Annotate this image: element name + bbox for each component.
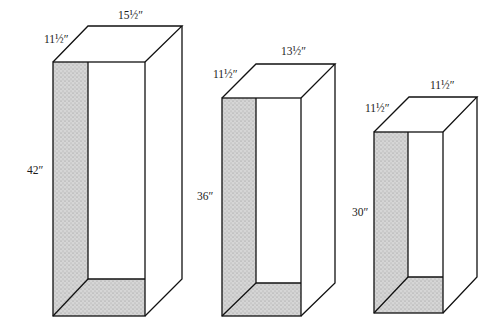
top-face-edges — [222, 64, 335, 98]
box-medium: 13½″ 11½″ 36″ — [197, 45, 335, 316]
box-large: 15½″ 11½″ 42″ — [27, 9, 182, 316]
depth-label: 11½″ — [44, 33, 69, 45]
width-label: 13½″ — [281, 45, 306, 57]
depth-label: 11½″ — [213, 68, 238, 80]
depth-label: 11½″ — [365, 102, 390, 114]
width-label: 15½″ — [118, 9, 143, 21]
box-small: 11½″ 11½″ 30″ — [352, 79, 477, 313]
right-back-edge — [301, 64, 335, 316]
right-back-edge — [443, 97, 477, 313]
inner-left-wall-shading — [222, 98, 256, 316]
height-label: 30″ — [352, 206, 369, 218]
top-face-edges — [53, 26, 182, 62]
right-back-edge — [145, 26, 182, 316]
inner-left-wall-shading — [53, 62, 88, 316]
width-label: 11½″ — [430, 79, 455, 91]
box-dimensions-diagram: 15½″ 11½″ 42″ 13½″ 11½″ 36″ 11½″ 11½″ 30… — [0, 0, 502, 332]
height-label: 42″ — [27, 164, 44, 176]
height-label: 36″ — [197, 190, 214, 202]
